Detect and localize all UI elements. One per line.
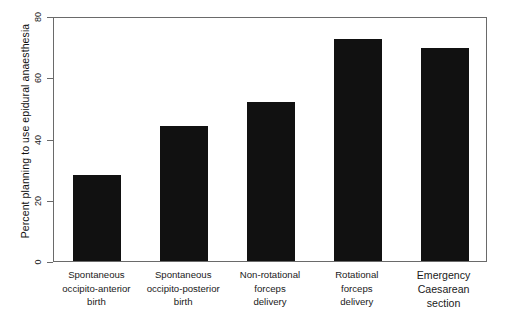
- x-axis-category-line: Non-rotational: [227, 268, 314, 282]
- x-axis-category-line: Caesarean: [400, 282, 487, 296]
- x-axis-category-line: delivery: [313, 295, 400, 309]
- y-axis-tick-label-wrap: 0: [31, 255, 45, 269]
- y-axis-tick-label: 80: [31, 2, 45, 32]
- y-axis-tick-label-wrap: 60: [31, 71, 45, 85]
- y-axis-tick-label-wrap: 80: [31, 10, 45, 24]
- plot-area: [53, 17, 487, 262]
- x-axis-category-line: Emergency: [400, 268, 487, 282]
- bar-chart: Percent planning to use epidural anaesth…: [0, 0, 507, 321]
- x-axis-category-line: forceps: [227, 282, 314, 296]
- x-axis-category-label: Non-rotationalforcepsdelivery: [227, 268, 314, 309]
- x-axis-category-line: occipito-posterior: [140, 282, 227, 296]
- bar: [160, 126, 208, 261]
- y-axis-tick-label: 60: [31, 63, 45, 93]
- x-axis-category-line: Spontaneous: [53, 268, 140, 282]
- bar: [73, 175, 121, 261]
- x-axis-category-label: EmergencyCaesareansection: [400, 268, 487, 310]
- x-axis-category-line: Rotational: [313, 268, 400, 282]
- bar: [334, 39, 382, 261]
- x-axis-category-line: section: [400, 296, 487, 310]
- y-axis-tick-label: 40: [31, 125, 45, 155]
- x-axis-category-line: delivery: [227, 295, 314, 309]
- x-axis-category-line: birth: [140, 295, 227, 309]
- y-axis-tick: [47, 262, 53, 263]
- x-axis-category-label: Spontaneousoccipito-posteriorbirth: [140, 268, 227, 309]
- y-axis-tick-label-wrap: 20: [31, 194, 45, 208]
- y-axis-tick-label-wrap: 40: [31, 133, 45, 147]
- y-axis-tick-label: 0: [31, 247, 45, 277]
- x-axis-category-label: Spontaneousoccipito-anteriorbirth: [53, 268, 140, 309]
- x-axis-category-label: Rotationalforcepsdelivery: [313, 268, 400, 309]
- bar: [421, 48, 469, 261]
- bar: [247, 102, 295, 261]
- x-axis-category-line: forceps: [313, 282, 400, 296]
- x-axis-category-line: occipito-anterior: [53, 282, 140, 296]
- y-axis-tick-label: 20: [31, 186, 45, 216]
- x-axis-category-line: Spontaneous: [140, 268, 227, 282]
- x-axis-category-line: birth: [53, 295, 140, 309]
